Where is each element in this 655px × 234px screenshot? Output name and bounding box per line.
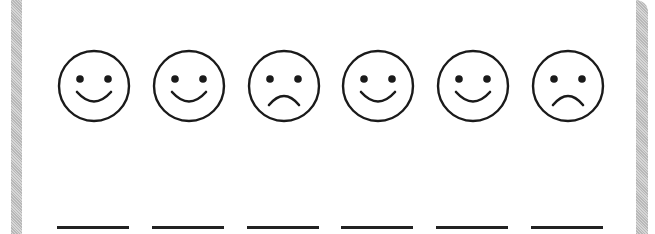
answer-blank-line [341, 226, 413, 229]
answer-blank-line [436, 226, 508, 229]
answer-blank-line [531, 226, 603, 229]
frame-border-right [636, 0, 648, 234]
sad-face-icon [531, 49, 605, 123]
happy-face-icon [436, 49, 510, 123]
answer-blank-line [152, 226, 224, 229]
answer-blank-line [57, 226, 129, 229]
answer-blank-line [247, 226, 319, 229]
happy-face-icon [152, 49, 226, 123]
frame-border-left [11, 0, 22, 234]
sad-face-icon [247, 49, 321, 123]
happy-face-icon [341, 49, 415, 123]
happy-face-icon [57, 49, 131, 123]
